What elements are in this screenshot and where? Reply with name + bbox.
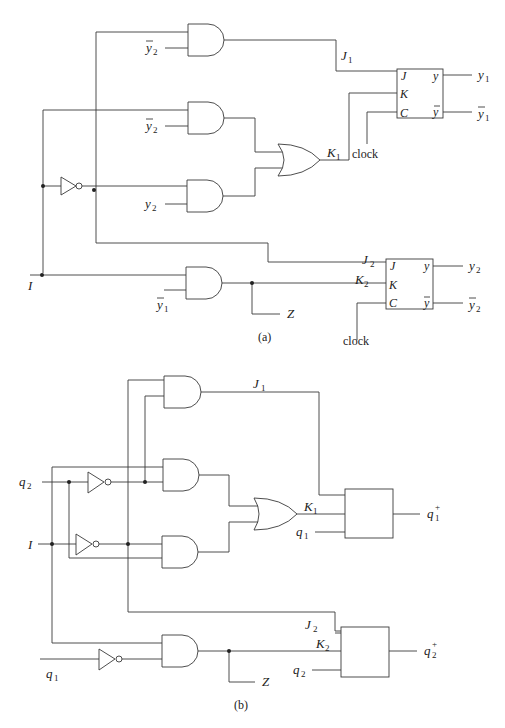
inverter-b-q2-bubble: [105, 479, 111, 485]
label-j1-a: J 1: [341, 48, 353, 65]
label-q1-in-b: q 1: [296, 524, 309, 541]
label-clock-1: clock: [352, 147, 378, 161]
svg-text:J: J: [253, 376, 260, 391]
label-q2-b: q 2: [19, 474, 32, 491]
svg-text:1: 1: [54, 673, 59, 683]
svg-text:2: 2: [152, 203, 157, 213]
svg-text:y: y: [467, 258, 475, 273]
circuit-figure: J K C y y J K C y y y 2 y 2 y 2 I: [0, 0, 505, 728]
label-y2bar-out: y 2: [467, 297, 481, 314]
label-z-b: Z: [262, 674, 270, 689]
label-k2-a: K 2: [354, 272, 369, 289]
inverter-b-i-bubble: [93, 541, 99, 547]
svg-text:q: q: [424, 643, 431, 658]
svg-text:2: 2: [313, 624, 318, 634]
svg-text:1: 1: [485, 74, 490, 84]
label-clock-2: clock: [343, 334, 369, 348]
svg-text:y: y: [476, 106, 484, 121]
inverter-bubble-a: [76, 183, 82, 189]
ff2-pin-y: y: [423, 259, 430, 273]
label-i-a: I: [27, 278, 33, 293]
label-k1-a: K 1: [326, 145, 341, 162]
svg-text:1: 1: [261, 383, 266, 393]
svg-text:y: y: [143, 196, 151, 211]
ff2-pin-k: K: [388, 278, 398, 292]
svg-text:2: 2: [153, 47, 158, 57]
svg-text:J: J: [305, 617, 312, 632]
svg-text:y: y: [144, 40, 152, 55]
caption-a: (a): [258, 330, 271, 344]
svg-text:y: y: [144, 118, 152, 133]
ff1-pin-y: y: [432, 69, 439, 83]
svg-text:q: q: [427, 506, 434, 521]
figure-a: J K C y y J K C y y y 2 y 2 y 2 I: [27, 24, 490, 348]
svg-text:J: J: [341, 48, 348, 63]
and-gate-b4: [162, 635, 198, 667]
inverter-a: [61, 177, 76, 195]
svg-text:1: 1: [435, 513, 440, 523]
svg-text:2: 2: [476, 265, 481, 275]
label-y2bar-mid: y 2: [144, 118, 158, 135]
next-state-block-2: [341, 627, 389, 677]
and-gate-b2: [163, 459, 199, 491]
svg-text:2: 2: [370, 259, 375, 269]
inverter-b-q2: [88, 472, 104, 493]
label-k2-b: K 2: [315, 636, 330, 653]
ff2-pin-c: C: [389, 296, 398, 310]
label-y1-out: y 1: [476, 67, 490, 84]
svg-text:1: 1: [304, 531, 309, 541]
svg-text:2: 2: [325, 643, 330, 653]
next-state-block-1: [345, 489, 393, 538]
and-gate-a2: [188, 102, 224, 134]
label-q1-b: q 1: [46, 666, 59, 683]
ff2-pin-ybar: y: [423, 296, 430, 310]
svg-text:y: y: [476, 67, 484, 82]
and-gate-a1: [188, 24, 224, 56]
figure-b: q 2 I q 1 J 1 K 1 q 1 q 1 + J 2 K: [19, 376, 440, 712]
label-y2: y 2: [143, 196, 157, 213]
svg-text:2: 2: [153, 125, 158, 135]
or-gate-a: [278, 144, 320, 176]
label-k1-b: K 1: [303, 499, 318, 516]
svg-text:1: 1: [348, 55, 353, 65]
and-gate-a4: [186, 267, 222, 299]
ff1-pin-c: C: [400, 106, 409, 120]
label-y1bar: y 1: [155, 297, 169, 314]
svg-text:y: y: [467, 297, 475, 312]
svg-text:+: +: [435, 502, 440, 512]
svg-text:1: 1: [164, 304, 169, 314]
and-gate-b1: [164, 376, 201, 408]
label-q2-in-b: q 2: [293, 662, 306, 679]
and-gate-a3: [187, 180, 223, 212]
label-i-b: I: [27, 537, 33, 552]
svg-text:2: 2: [301, 669, 306, 679]
label-j1-b: J 1: [253, 376, 266, 393]
label-z-a: Z: [287, 306, 295, 321]
svg-text:y: y: [155, 297, 163, 312]
ff1-pin-j: J: [401, 69, 407, 83]
ff1-pin-k: K: [399, 87, 409, 101]
ff2-pin-j: J: [390, 259, 396, 273]
svg-text:1: 1: [313, 506, 318, 516]
svg-text:2: 2: [364, 279, 369, 289]
svg-text:q: q: [46, 666, 53, 681]
and-gate-b3: [162, 536, 198, 568]
svg-text:q: q: [19, 474, 26, 489]
svg-text:1: 1: [336, 152, 341, 162]
label-y2bar-top: y 2: [144, 40, 158, 57]
label-j2-a: J 2: [362, 252, 375, 269]
svg-text:q: q: [293, 662, 300, 677]
svg-text:2: 2: [27, 481, 32, 491]
svg-text:I: I: [27, 278, 33, 293]
svg-text:+: +: [432, 639, 437, 649]
svg-text:q: q: [296, 524, 303, 539]
ff1-pin-ybar: y: [432, 105, 439, 119]
svg-text:1: 1: [485, 113, 490, 123]
inverter-b-q1: [99, 649, 115, 670]
inverter-b-i: [76, 534, 92, 555]
svg-text:2: 2: [476, 304, 481, 314]
label-j2-b: J 2: [305, 617, 318, 634]
svg-text:2: 2: [432, 650, 437, 660]
or-gate-b: [254, 498, 297, 530]
label-q2-plus: q 2 +: [424, 639, 437, 660]
